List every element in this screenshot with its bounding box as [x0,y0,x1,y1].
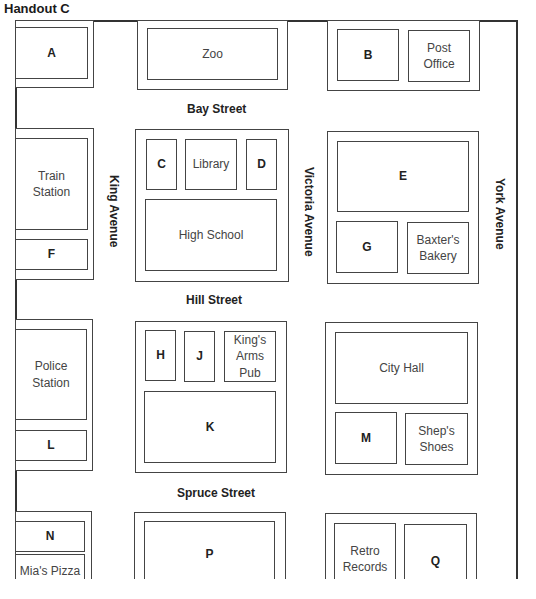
street-king: King Avenue [107,175,121,247]
street-bay: Bay Street [187,102,246,116]
lot-kings-arms-pub[interactable]: King's Arms Pub [224,331,276,382]
lot-j[interactable]: J [184,331,215,382]
lot-q[interactable]: Q [404,524,467,579]
lot-retro-records[interactable]: Retro Records [334,523,396,579]
lot-e[interactable]: E [337,141,469,212]
lot-a[interactable]: A [15,27,88,79]
lot-library[interactable]: Library [185,139,237,190]
street-hill: Hill Street [186,293,242,307]
lot-police-station[interactable]: Police Station [15,329,87,420]
lot-mias-pizza[interactable]: Mia's Pizza [15,554,85,579]
lot-p[interactable]: P [144,521,275,579]
lot-c[interactable]: C [146,139,177,190]
street-victoria: Victoria Avenue [302,167,316,257]
lot-baxters-bakery[interactable]: Baxter's Bakery [407,222,469,274]
street-spruce: Spruce Street [177,486,255,500]
lot-train-station[interactable]: Train Station [15,138,88,230]
lot-d[interactable]: D [246,139,277,190]
lot-f[interactable]: F [15,239,88,270]
lot-g[interactable]: G [336,221,398,273]
lot-m[interactable]: M [335,412,397,464]
street-york: York Avenue [493,178,507,250]
lot-h[interactable]: H [145,330,176,381]
map-frame-left [15,20,17,579]
lot-l[interactable]: L [15,430,87,461]
lot-k[interactable]: K [144,391,276,463]
map-frame-right [516,20,518,579]
lot-high-school[interactable]: High School [145,199,277,271]
city-map: A Zoo B Post Office Bay Street Train Sta… [0,0,536,579]
lot-post-office[interactable]: Post Office [408,30,470,82]
lot-zoo[interactable]: Zoo [147,28,278,80]
lot-city-hall[interactable]: City Hall [335,332,468,404]
lot-b[interactable]: B [337,29,399,81]
lot-n[interactable]: N [15,521,85,552]
lot-sheps-shoes[interactable]: Shep's Shoes [405,413,468,465]
